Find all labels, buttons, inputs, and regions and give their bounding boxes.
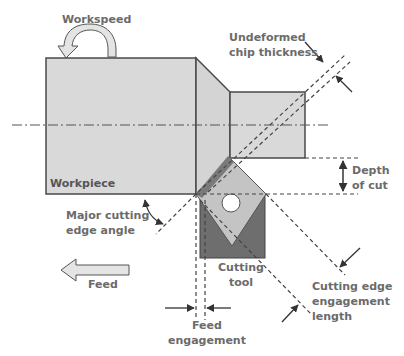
label-feed: Feed [88,277,118,292]
engagement-arrow-top [340,248,360,267]
engagement-line-1 [266,194,345,275]
label-depth-of-cut: Depth of cut [352,163,390,193]
workspeed-arrow-icon [58,24,116,58]
edge-angle-line [156,194,196,234]
label-undeformed-chip-thickness: Undeformed chip thickness [229,30,318,60]
label-major-cutting-edge-angle: Major cutting edge angle [66,208,149,238]
label-workspeed: Workspeed [62,12,131,27]
label-feed-engagement: Feed engagement [168,318,246,348]
label-workpiece: Workpiece [50,176,115,191]
label-cutting-edge-engagement-length: Cutting edge engagement length [312,279,392,324]
chip-arrow-bottom [336,76,352,92]
label-cutting-tool: Cutting tool [218,260,264,290]
workpiece-body [46,58,196,194]
insert-hole [222,194,240,212]
engagement-arrow-bottom [282,305,298,322]
